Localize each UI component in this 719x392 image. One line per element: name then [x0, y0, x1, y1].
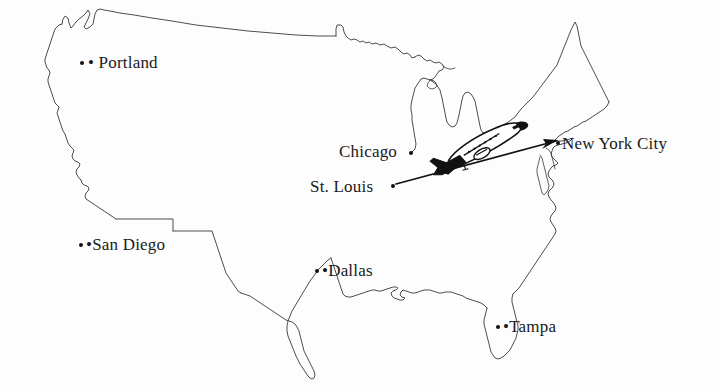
city-label-san-diego: •San Diego [86, 236, 165, 253]
city-label-chicago: Chicago [339, 143, 397, 160]
city-label-new-york-city: New York City [562, 135, 667, 152]
city-label-portland: • Portland [88, 54, 158, 71]
city-dot-portland [80, 61, 84, 65]
city-dot-st-louis [391, 184, 395, 188]
city-label-st-louis: St. Louis [310, 178, 373, 195]
city-label-tampa: •Tampa [503, 318, 556, 335]
us-map-figure: • Portland Chicago New York City St. Lou… [0, 0, 719, 392]
city-dot-dallas [315, 269, 319, 273]
city-dot-tampa [496, 325, 500, 329]
city-dot-new-york-city [556, 141, 560, 145]
great-lakes-detail [427, 66, 455, 89]
city-label-dallas: •Dallas [322, 262, 373, 279]
city-dot-san-diego [79, 243, 83, 247]
city-dot-chicago [409, 151, 413, 155]
